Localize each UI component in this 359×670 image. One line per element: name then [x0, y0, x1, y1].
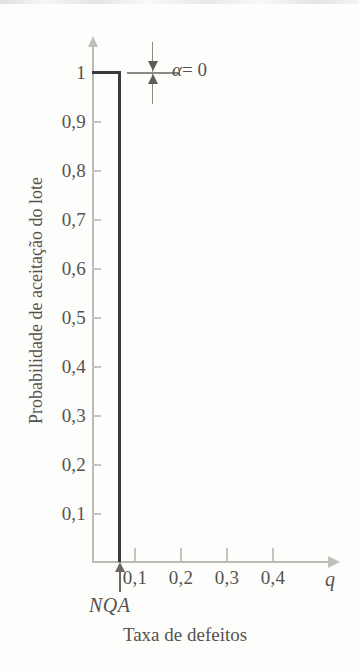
y-tick-mark [92, 464, 101, 466]
y-tick-mark [92, 366, 101, 368]
alpha-arrowhead-down-icon [148, 61, 158, 71]
nqa-label: NQA [89, 594, 131, 617]
y-tick-label-0-1: 0,1 [38, 504, 86, 524]
nqa-pointer-stem [119, 570, 121, 592]
x-tick-label-0-4: 0,4 [249, 568, 297, 587]
x-axis-title: Taxa de defeitos [60, 624, 310, 646]
y-tick-mark [92, 268, 101, 270]
y-tick-mark [92, 415, 101, 417]
alpha-symbol: α [172, 59, 182, 80]
y-axis-line [92, 46, 94, 563]
x-tick-label-0-3: 0,3 [203, 568, 251, 587]
y-tick-mark [92, 121, 101, 123]
y-axis-title: Probabilidade de aceitação do lote [26, 136, 47, 466]
y-tick-mark [92, 513, 101, 515]
alpha-annotation-label: α= 0 [172, 59, 207, 81]
alpha-value: = 0 [182, 59, 207, 80]
scan-artifact-band [0, 0, 359, 4]
x-tick-mark [180, 548, 182, 561]
x-tick-mark [134, 548, 136, 561]
x-tick-mark [226, 548, 228, 561]
y-tick-mark [92, 219, 101, 221]
x-axis-line [92, 561, 330, 563]
oc-curve-plateau-segment [92, 71, 121, 74]
x-tick-label-0-2: 0,2 [157, 568, 205, 587]
y-tick-mark [92, 170, 101, 172]
x-axis-arrow-icon [328, 556, 340, 568]
oc-curve-figure: 1 0,9 0,8 0,7 0,6 0,5 0,4 0,3 0,2 0,1 0,… [0, 0, 359, 670]
x-tick-mark [272, 548, 274, 561]
y-axis-arrow-icon [88, 36, 98, 47]
alpha-arrowhead-up-icon [148, 74, 158, 84]
y-tick-label-1: 1 [38, 63, 86, 83]
nqa-pointer-arrowhead-icon [115, 562, 125, 572]
alpha-measure-stem [152, 42, 153, 104]
oc-curve-vertical-drop-segment [118, 71, 121, 562]
x-axis-variable-symbol: q [325, 568, 335, 591]
y-tick-mark [92, 317, 101, 319]
y-tick-label-0-9: 0,9 [38, 112, 86, 132]
